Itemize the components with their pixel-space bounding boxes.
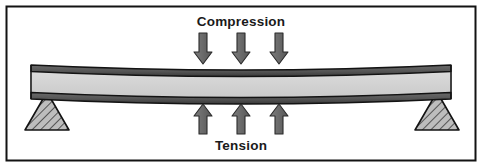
tension-label: Tension [215, 138, 267, 153]
diagram-canvas: Compression Tension [0, 0, 482, 167]
beam-bending-diagram-screenshot: Compression Tension [0, 0, 482, 167]
compression-label: Compression [197, 14, 285, 29]
beam-assembly [31, 65, 451, 104]
